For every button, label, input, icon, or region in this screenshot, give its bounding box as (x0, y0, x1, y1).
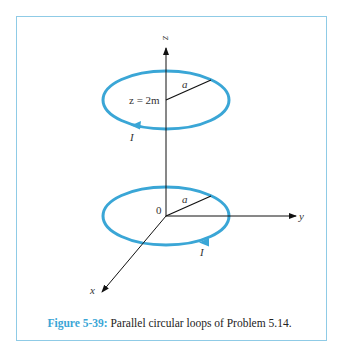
y-axis-label: y (298, 210, 304, 222)
upper-current-arrow-icon (131, 121, 141, 130)
lower-radius-label: a (182, 193, 188, 205)
figure-number: Figure 5-39: (47, 317, 107, 329)
origin-label: 0 (156, 204, 162, 216)
caption-text: Parallel circular loops of Problem 5.14. (108, 317, 292, 329)
lower-current-label: I (199, 246, 205, 258)
upper-height-label: z = 2m (129, 94, 160, 106)
x-axis (102, 216, 166, 292)
upper-radius-label: a (182, 78, 188, 90)
z-axis-label: z (161, 35, 173, 41)
x-axis-label: x (89, 284, 95, 296)
lower-radius-line (166, 196, 211, 216)
upper-radius-line (166, 80, 211, 100)
figure-caption: Figure 5-39: Parallel circular loops of … (0, 317, 339, 329)
upper-current-label: I (129, 131, 135, 143)
parallel-loops-diagram: z y x 0 z = 2m a a I I (0, 0, 339, 347)
